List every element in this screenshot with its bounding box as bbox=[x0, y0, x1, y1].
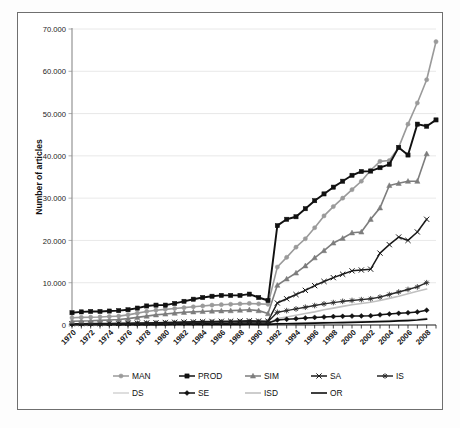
x-tick-label: 2000 bbox=[339, 328, 358, 347]
y-tick-label: 0 bbox=[62, 321, 66, 330]
x-tick-label: 2008 bbox=[414, 328, 433, 347]
chart-figure: 010.00020.00030.00040.00050.00060.00070.… bbox=[0, 0, 460, 428]
legend-label: PROD bbox=[198, 371, 222, 381]
legend-item-se[interactable]: SE bbox=[179, 388, 210, 398]
x-tick-label: 1972 bbox=[78, 328, 97, 347]
legend-label: SA bbox=[330, 371, 342, 381]
legend-item-is[interactable]: IS bbox=[377, 371, 404, 381]
x-tick-label: 1996 bbox=[302, 328, 321, 347]
legend-item-man[interactable]: MAN bbox=[113, 371, 151, 381]
legend-label: SE bbox=[198, 388, 210, 398]
x-tick-label: 1980 bbox=[153, 328, 172, 347]
series-man bbox=[70, 40, 438, 320]
legend-label: ISD bbox=[264, 388, 278, 398]
x-tick-label: 1976 bbox=[115, 328, 134, 347]
line-chart: 010.00020.00030.00040.00050.00060.00070.… bbox=[0, 0, 460, 428]
series-prod bbox=[70, 118, 438, 315]
legend-item-or[interactable]: OR bbox=[311, 388, 343, 398]
legend-label: MAN bbox=[132, 371, 151, 381]
x-tick-label: 2004 bbox=[377, 328, 396, 347]
y-tick-label: 60.000 bbox=[43, 67, 66, 76]
y-tick-label: 70.000 bbox=[43, 25, 66, 34]
x-tick-label: 1990 bbox=[246, 328, 265, 347]
legend-label: DS bbox=[132, 388, 144, 398]
x-axis-ticks: 1970197219741976197819801982198419861988… bbox=[59, 325, 436, 347]
y-tick-label: 20.000 bbox=[43, 237, 66, 246]
x-tick-label: 2002 bbox=[358, 328, 377, 347]
legend-item-sa[interactable]: SA bbox=[311, 371, 342, 381]
chart-legend: MANPRODSIMSAISDSSEISDOR bbox=[113, 371, 404, 398]
legend-label: IS bbox=[396, 371, 404, 381]
x-tick-label: 1974 bbox=[97, 328, 116, 347]
x-tick-label: 1978 bbox=[134, 328, 153, 347]
x-tick-label: 1982 bbox=[171, 328, 190, 347]
legend-label: SIM bbox=[264, 371, 279, 381]
y-tick-label: 10.000 bbox=[43, 279, 66, 288]
legend-item-isd[interactable]: ISD bbox=[245, 388, 278, 398]
x-tick-label: 1986 bbox=[209, 328, 228, 347]
legend-item-sim[interactable]: SIM bbox=[245, 371, 279, 381]
x-tick-label: 2006 bbox=[395, 328, 414, 347]
y-gridlines: 010.00020.00030.00040.00050.00060.00070.… bbox=[43, 25, 436, 330]
x-tick-label: 1988 bbox=[227, 328, 246, 347]
x-tick-label: 1992 bbox=[265, 328, 284, 347]
x-tick-label: 1998 bbox=[321, 328, 340, 347]
x-tick-label: 1970 bbox=[59, 328, 78, 347]
y-axis-title: Number of articles bbox=[34, 139, 44, 215]
legend-item-prod[interactable]: PROD bbox=[179, 371, 222, 381]
legend-label: OR bbox=[330, 388, 343, 398]
x-tick-label: 1984 bbox=[190, 328, 209, 347]
x-tick-label: 1994 bbox=[283, 328, 302, 347]
legend-item-ds[interactable]: DS bbox=[113, 388, 144, 398]
y-tick-label: 40.000 bbox=[43, 152, 66, 161]
y-tick-label: 30.000 bbox=[43, 194, 66, 203]
y-tick-label: 50.000 bbox=[43, 110, 66, 119]
